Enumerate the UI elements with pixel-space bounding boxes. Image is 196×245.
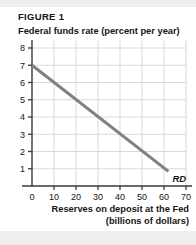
- x-tick-label: 10: [49, 192, 59, 202]
- x-tick-label: 20: [71, 192, 81, 202]
- y-tick-label: 2: [20, 147, 25, 157]
- x-tick-label: 0: [29, 192, 34, 202]
- x-tick-label: 70: [181, 192, 191, 202]
- figure-container: FIGURE 1 Federal funds rate (percent per…: [0, 0, 196, 245]
- series-annotation-group: RD: [172, 173, 186, 184]
- y-tick-label: 5: [20, 95, 25, 105]
- x-axis-title-line-1: Reserves on deposit at the Fed: [14, 203, 189, 215]
- y-tick-label: 4: [20, 112, 25, 122]
- axis-lines-group: [22, 40, 192, 186]
- demand-curve-line: [32, 65, 168, 171]
- x-tick-label: 40: [115, 192, 125, 202]
- y-tick-label: 1: [20, 164, 25, 174]
- y-tick-label: 6: [20, 78, 25, 88]
- x-axis-title-line-2: (billions of dollars): [14, 215, 189, 227]
- curve-label-rd: RD: [172, 173, 186, 184]
- x-tick-label: 60: [159, 192, 169, 202]
- x-axis-title: Reserves on deposit at the Fed (billions…: [14, 203, 189, 227]
- x-tick-label: 50: [137, 192, 147, 202]
- y-tick-label: 7: [20, 61, 25, 71]
- y-tick-label: 3: [20, 130, 25, 140]
- gridlines-group: [32, 40, 186, 186]
- data-series-group: [32, 65, 168, 171]
- y-tick-label: 8: [20, 43, 25, 53]
- x-tick-label: 30: [93, 192, 103, 202]
